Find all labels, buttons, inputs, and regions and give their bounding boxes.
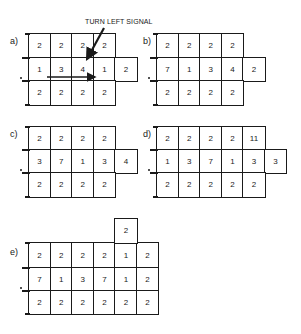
lane-line xyxy=(150,57,158,59)
grid-cell: 1 xyxy=(28,57,51,82)
grid-cell: 2 xyxy=(50,242,73,269)
lane-marker-dot xyxy=(148,77,150,79)
grid-cell: 7 xyxy=(93,267,116,292)
grid-cell: 7 xyxy=(199,149,222,174)
grid-cell: 11 xyxy=(242,126,265,151)
grid-cell: 2 xyxy=(178,80,201,106)
grid-cell: 2 xyxy=(28,290,51,315)
grid-cell: 3 xyxy=(93,149,116,174)
grid-cell: 2 xyxy=(93,33,116,59)
panel-label: d) xyxy=(143,130,151,139)
lane-line xyxy=(153,126,158,128)
grid-cell: 2 xyxy=(221,126,244,151)
lane-line xyxy=(153,196,158,198)
lane-line xyxy=(25,313,30,315)
lane-line xyxy=(22,80,30,82)
lane-line xyxy=(25,242,30,244)
grid-cell: 2 xyxy=(50,33,73,59)
grid-cell: 1 xyxy=(114,242,137,269)
grid-cell: 2 xyxy=(199,126,222,151)
grid-cell: 2 xyxy=(199,172,222,198)
lane-marker-dot xyxy=(20,77,22,79)
grid-cell: 2 xyxy=(199,33,222,59)
lane-line xyxy=(25,126,30,128)
grid-cell: 2 xyxy=(242,172,265,198)
lane-line xyxy=(25,104,30,106)
grid-cell: 2 xyxy=(156,172,179,198)
grid-cell: 2 xyxy=(242,57,265,82)
lane-line xyxy=(150,149,158,151)
lane-marker-dot xyxy=(20,169,22,171)
grid-cell: 2 xyxy=(156,80,179,106)
panel-label: b) xyxy=(143,37,151,46)
grid-cell: 4 xyxy=(71,57,94,82)
panel-label: a) xyxy=(10,37,18,46)
grid-cell: 2 xyxy=(50,172,73,198)
grid-cell: 3 xyxy=(71,267,94,292)
grid-cell: 2 xyxy=(221,172,244,198)
grid-cell: 2 xyxy=(136,242,159,269)
grid-cell: 1 xyxy=(93,57,116,82)
lane-line xyxy=(22,290,30,292)
grid-cell: 2 xyxy=(28,126,51,151)
grid-cell: 4 xyxy=(114,149,137,174)
lane-line xyxy=(150,80,158,82)
grid-cell: 2 xyxy=(93,126,116,151)
grid-cell: 3 xyxy=(242,149,265,174)
grid-cell: 2 xyxy=(71,33,94,59)
grid-cell: 2 xyxy=(93,80,116,106)
grid-cell: 2 xyxy=(136,290,159,315)
lane-line xyxy=(153,33,158,35)
grid-cell: 2 xyxy=(178,172,201,198)
lane-line xyxy=(22,149,30,151)
grid-cell-extra: 2 xyxy=(114,218,137,244)
grid-cell: 2 xyxy=(178,33,201,59)
grid-cell: 7 xyxy=(50,149,73,174)
grid-cell: 2 xyxy=(114,57,137,82)
lane-line xyxy=(22,57,30,59)
grid-cell: 2 xyxy=(93,290,116,315)
grid-cell: 1 xyxy=(178,57,201,82)
lane-line xyxy=(22,267,30,269)
grid-cell: 1 xyxy=(71,149,94,174)
panel-label: e) xyxy=(10,248,18,257)
lane-line xyxy=(25,33,30,35)
grid-cell: 2 xyxy=(199,80,222,106)
lane-marker-dot xyxy=(20,287,22,289)
grid-cell: 1 xyxy=(156,149,179,174)
grid-cell: 1 xyxy=(50,267,73,292)
grid-cell: 3 xyxy=(199,57,222,82)
grid-cell: 2 xyxy=(71,126,94,151)
lane-line xyxy=(150,172,158,174)
grid-cell: 1 xyxy=(221,149,244,174)
grid-cell: 2 xyxy=(50,80,73,106)
grid-cell: 2 xyxy=(156,126,179,151)
grid-cell: 2 xyxy=(114,290,137,315)
grid-cell: 2 xyxy=(28,80,51,106)
lane-line xyxy=(153,104,158,106)
grid-cell: 3 xyxy=(28,149,51,174)
grid-cell: 2 xyxy=(93,172,116,198)
grid-cell: 3 xyxy=(178,149,201,174)
grid-cell: 2 xyxy=(71,242,94,269)
grid-cell: 2 xyxy=(28,242,51,269)
grid-cell: 2 xyxy=(28,172,51,198)
grid-cell: 2 xyxy=(28,33,51,59)
lane-marker-dot xyxy=(148,169,150,171)
grid-cell: 2 xyxy=(221,80,244,106)
grid-cell: 2 xyxy=(50,126,73,151)
grid-cell: 7 xyxy=(28,267,51,292)
lane-line xyxy=(25,196,30,198)
grid-cell: 3 xyxy=(264,149,287,174)
grid-cell: 3 xyxy=(50,57,73,82)
grid-cell: 2 xyxy=(156,33,179,59)
turn-left-signal-label: TURN LEFT SIGNAL xyxy=(85,18,153,25)
panel-label: c) xyxy=(10,130,18,139)
grid-cell: 2 xyxy=(136,267,159,292)
grid-cell: 2 xyxy=(221,33,244,59)
grid-cell: 4 xyxy=(221,57,244,82)
lane-line xyxy=(22,172,30,174)
grid-cell: 1 xyxy=(114,267,137,292)
grid-cell: 2 xyxy=(93,242,116,269)
grid-cell: 2 xyxy=(71,172,94,198)
